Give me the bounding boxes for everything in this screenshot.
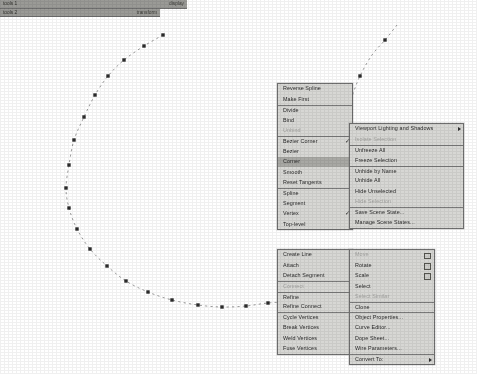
menu-item-label: Unhide All: [355, 178, 380, 183]
quad-titlebar-upper[interactable]: tools 1 display: [0, 0, 187, 9]
menu-item-label: Manage Scene States...: [355, 220, 415, 225]
menu-item-label: Refine Connect: [283, 304, 322, 309]
menu-item-freeze-selection[interactable]: Freeze Selection: [350, 155, 463, 165]
spline-vertex-4[interactable]: [106, 74, 109, 77]
menu-item-reset-tangents[interactable]: Reset Tangents: [278, 178, 352, 188]
menu-item-make-first[interactable]: Make First: [278, 94, 352, 104]
spline-vertex-6[interactable]: [82, 115, 85, 118]
spline-vertex-19[interactable]: [244, 304, 247, 307]
menu-item-viewport-lighting-and-shadows[interactable]: Viewport Lighting and Shadows: [350, 124, 463, 134]
menu-item-break-vertices[interactable]: Break Vertices: [278, 323, 352, 333]
menu-item-divide[interactable]: Divide: [278, 105, 352, 115]
spline-vertex-16[interactable]: [170, 298, 173, 301]
spline-vertex-1[interactable]: [161, 33, 164, 36]
quad-titlebar-lower[interactable]: tools 2 transform: [0, 9, 160, 18]
menu-item-save-scene-state[interactable]: Save Scene State...: [350, 207, 463, 217]
spline-vertex-18[interactable]: [220, 305, 223, 308]
menu-item-bind[interactable]: Bind: [278, 115, 352, 125]
spline-vertex-7[interactable]: [72, 138, 75, 141]
menu-item-weld-vertices[interactable]: Weld Vertices: [278, 333, 352, 343]
menu-item-label: Wire Parameters...: [355, 346, 402, 351]
menu-item-label: Object Properties...: [355, 315, 403, 320]
menu-item-fuse-vertices[interactable]: Fuse Vertices: [278, 344, 352, 354]
menu-item-select-similar: Select Similar: [350, 292, 434, 302]
menu-item-label: Unbind: [283, 128, 301, 133]
menu-item-label: Unfreeze All: [355, 148, 385, 153]
menu-item-curve-editor[interactable]: Curve Editor...: [350, 323, 434, 333]
spline-vertex-14[interactable]: [124, 279, 127, 282]
menu-item-label: Make First: [283, 97, 309, 102]
settings-dialog-icon[interactable]: [424, 263, 431, 270]
menu-item-vertex[interactable]: Vertex✓: [278, 209, 352, 219]
menu-item-wire-parameters[interactable]: Wire Parameters...: [350, 344, 434, 354]
menu-item-manage-scene-states[interactable]: Manage Scene States...: [350, 218, 463, 228]
menu-item-label: Scale: [355, 273, 369, 278]
menu-item-bezier-corner[interactable]: Bezier Corner✓: [278, 136, 352, 146]
menu-item-label: Fuse Vertices: [283, 346, 317, 351]
spline-vertex-17[interactable]: [196, 303, 199, 306]
menu-item-clone[interactable]: Clone: [350, 302, 434, 312]
menu-item-unhide-all[interactable]: Unhide All: [350, 176, 463, 186]
menu-item-label: Connect: [283, 284, 304, 289]
quad-menu-transform[interactable]: MoveRotateScaleSelectSelect SimilarClone…: [349, 249, 435, 365]
menu-item-create-line[interactable]: Create Line: [278, 250, 352, 260]
spline-vertex-5[interactable]: [93, 93, 96, 96]
menu-item-label: Attach: [283, 263, 299, 268]
menu-item-label: Smooth: [283, 170, 302, 175]
quad-title-display: display: [169, 1, 184, 6]
menu-item-label: Bind: [283, 118, 294, 123]
menu-item-detach-segment[interactable]: Detach Segment: [278, 271, 352, 281]
spline-vertex-upper-4[interactable]: [358, 74, 361, 77]
menu-item-convert-to[interactable]: Convert To:: [350, 354, 434, 364]
menu-item-object-properties[interactable]: Object Properties...: [350, 312, 434, 322]
menu-item-bezier[interactable]: Bezier: [278, 146, 352, 156]
spline-vertex-15[interactable]: [146, 290, 149, 293]
menu-item-cycle-vertices[interactable]: Cycle Vertices: [278, 312, 352, 322]
menu-item-label: Refine: [283, 295, 299, 300]
menu-item-spline[interactable]: Spline: [278, 188, 352, 198]
menu-item-corner[interactable]: Corner: [278, 157, 352, 167]
menu-item-select[interactable]: Select: [350, 281, 434, 291]
quad-menu-tools-2[interactable]: Create LineAttachDetach SegmentConnectRe…: [277, 249, 353, 355]
submenu-arrow-icon: [458, 127, 461, 131]
menu-item-scale[interactable]: Scale: [350, 271, 434, 281]
menu-item-smooth[interactable]: Smooth: [278, 167, 352, 177]
quad-menu-display[interactable]: Viewport Lighting and ShadowsIsolate Sel…: [349, 123, 464, 229]
spline-vertex-11[interactable]: [75, 227, 78, 230]
menu-item-refine-connect[interactable]: Refine Connect: [278, 302, 352, 312]
spline-vertex-upper-2[interactable]: [383, 38, 386, 41]
menu-item-label: Cycle Vertices: [283, 315, 319, 320]
menu-item-unfreeze-all[interactable]: Unfreeze All: [350, 145, 463, 155]
settings-dialog-icon[interactable]: [424, 253, 431, 260]
menu-item-unhide-by-name[interactable]: Unhide by Name: [350, 166, 463, 176]
menu-item-segment[interactable]: Segment: [278, 198, 352, 208]
spline-vertex-13[interactable]: [105, 264, 108, 267]
spline-vertex-9[interactable]: [64, 186, 67, 189]
menu-item-label: Rotate: [355, 263, 371, 268]
quad-title-tools-1: tools 1: [3, 1, 17, 6]
menu-item-label: Create Line: [283, 252, 312, 257]
spline-segment-upper: [347, 25, 397, 118]
spline-vertex-12[interactable]: [88, 247, 91, 250]
spline-vertex-3[interactable]: [122, 58, 125, 61]
menu-item-top-level[interactable]: Top-level: [278, 219, 352, 229]
menu-item-reverse-spline[interactable]: Reverse Spline: [278, 84, 352, 94]
spline-vertex-2[interactable]: [142, 44, 145, 47]
menu-item-label: Reverse Spline: [283, 86, 321, 91]
menu-item-label: Isolate Selection: [355, 137, 396, 142]
menu-item-rotate[interactable]: Rotate: [350, 260, 434, 270]
settings-dialog-icon[interactable]: [424, 273, 431, 280]
menu-item-dope-sheet[interactable]: Dope Sheet...: [350, 333, 434, 343]
menu-item-connect: Connect: [278, 281, 352, 291]
menu-item-attach[interactable]: Attach: [278, 260, 352, 270]
menu-item-label: Segment: [283, 201, 305, 206]
spline-vertex-10[interactable]: [67, 206, 70, 209]
spline-vertex-20[interactable]: [266, 301, 269, 304]
menu-item-refine[interactable]: Refine: [278, 292, 352, 302]
menu-item-label: Weld Vertices: [283, 336, 317, 341]
quad-title-transform: transform: [137, 10, 157, 15]
spline-vertex-8[interactable]: [67, 163, 70, 166]
menu-item-hide-unselected[interactable]: Hide Unselected: [350, 186, 463, 196]
quad-menu-tools-1[interactable]: Reverse SplineMake FirstDivideBindUnbind…: [277, 83, 353, 230]
menu-item-unbind: Unbind: [278, 126, 352, 136]
